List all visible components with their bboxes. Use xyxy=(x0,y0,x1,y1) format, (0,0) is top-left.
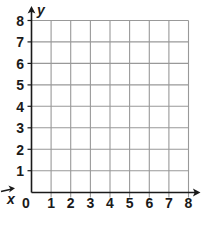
y-tick-label-2: 2 xyxy=(16,142,24,158)
origin-label: 0 xyxy=(22,195,30,211)
x-tick-label-1: 1 xyxy=(47,195,55,211)
x-tick-label-6: 6 xyxy=(145,195,153,211)
y-tick-label-3: 3 xyxy=(16,120,24,136)
y-axis-tick-labels: 8 7 6 5 4 3 2 1 xyxy=(16,13,24,179)
coordinate-grid-figure: 8 7 6 5 4 3 2 1 0 1 2 3 4 5 6 7 8 y x xyxy=(0,0,207,227)
y-tick-label-5: 5 xyxy=(16,77,24,93)
y-axis xyxy=(28,6,36,193)
x-tick-label-3: 3 xyxy=(87,195,95,211)
y-tick-label-1: 1 xyxy=(16,163,24,179)
x-tick-label-7: 7 xyxy=(165,195,173,211)
x-tick-label-4: 4 xyxy=(106,195,114,211)
y-tick-label-6: 6 xyxy=(16,56,24,72)
y-tick-label-4: 4 xyxy=(16,99,24,115)
x-tick-label-5: 5 xyxy=(126,195,134,211)
x-axis xyxy=(32,189,201,197)
coordinate-plane: 8 7 6 5 4 3 2 1 0 1 2 3 4 5 6 7 8 y x xyxy=(0,0,207,227)
x-tick-label-2: 2 xyxy=(67,195,75,211)
y-tick-label-8: 8 xyxy=(16,13,24,29)
x-tick-label-8: 8 xyxy=(185,195,193,211)
x-axis-tick-labels: 1 2 3 4 5 6 7 8 xyxy=(47,195,192,211)
x-axis-label: x xyxy=(6,191,16,207)
y-tick-label-7: 7 xyxy=(16,34,24,50)
y-axis-label: y xyxy=(36,2,46,18)
